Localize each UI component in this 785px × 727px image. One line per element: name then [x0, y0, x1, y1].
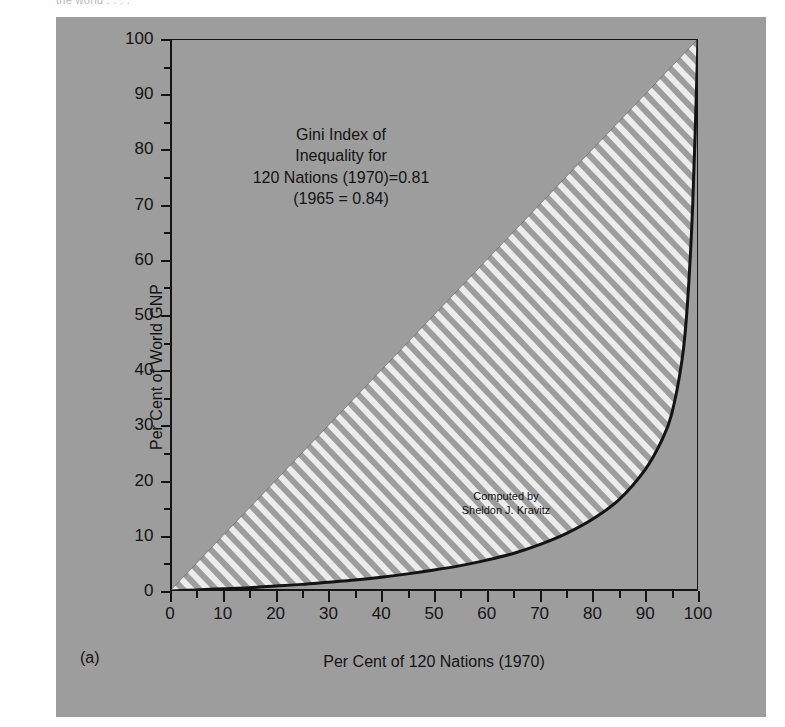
x-axis-tick-label-10: 10 — [213, 604, 232, 624]
x-axis-tick-label-40: 40 — [372, 604, 391, 624]
x-axis-tick-label-70: 70 — [530, 604, 549, 624]
gini-annotation-line-4: (1965 = 0.84) — [216, 188, 466, 209]
cropped-caption-text: the world . . . . — [56, 0, 130, 6]
y-axis-tick-10 — [161, 536, 170, 538]
x-axis-tick-label-80: 80 — [583, 604, 602, 624]
y-axis-tick-label-20: 20 — [135, 471, 160, 491]
x-axis-tick-25 — [302, 591, 304, 598]
y-axis-tick-label-80: 80 — [135, 139, 160, 159]
x-axis-tick-95 — [672, 591, 674, 598]
gini-annotation-line-3: 120 Nations (1970)=0.81 — [216, 167, 466, 188]
y-axis-tick-60 — [161, 260, 170, 262]
x-axis-tick-60 — [487, 591, 489, 602]
lorenz-curve-graphic — [170, 39, 698, 591]
y-axis-tick-65 — [164, 232, 170, 234]
x-axis-tick-65 — [513, 591, 515, 598]
y-axis-tick-90 — [161, 94, 170, 96]
x-axis-tick-90 — [645, 591, 647, 602]
x-axis-tick-85 — [619, 591, 621, 598]
x-axis-tick-10 — [223, 591, 225, 602]
y-axis-tick-45 — [164, 343, 170, 345]
y-axis-tick-label-50: 50 — [135, 305, 160, 325]
y-axis-tick-35 — [164, 398, 170, 400]
x-axis-tick-50 — [434, 591, 436, 602]
y-axis-tick-20 — [161, 481, 170, 483]
x-axis-tick-label-60: 60 — [477, 604, 496, 624]
x-axis-tick-label-0: 0 — [165, 604, 174, 624]
y-axis-tick-label-30: 30 — [135, 415, 160, 435]
y-axis-tick-label-70: 70 — [135, 195, 160, 215]
y-axis-tick-label-10: 10 — [135, 526, 160, 546]
y-axis-tick-100 — [161, 39, 170, 41]
y-axis-tick-0 — [161, 591, 170, 593]
y-axis-tick-95 — [164, 67, 170, 69]
x-axis-tick-55 — [460, 591, 462, 598]
credit-annotation: Computed by Sheldon J. Kravitz — [436, 489, 576, 518]
plot-area: 0102030405060708090100 01020304050607080… — [170, 39, 698, 591]
x-axis-tick-80 — [592, 591, 594, 602]
x-axis-title: Per Cent of 120 Nations (1970) — [170, 653, 698, 671]
y-axis-tick-50 — [161, 315, 170, 317]
y-axis-tick-85 — [164, 122, 170, 124]
gini-annotation-line-1: Gini Index of — [216, 124, 466, 145]
figure-panel: Per Cent of World GNP Per Cent of 120 Na… — [56, 17, 766, 717]
y-axis-tick-70 — [161, 205, 170, 207]
x-axis-tick-100 — [698, 591, 700, 602]
x-axis-tick-label-90: 90 — [636, 604, 655, 624]
gini-annotation-line-2: Inequality for — [216, 145, 466, 166]
y-axis-tick-5 — [164, 563, 170, 565]
y-axis-tick-25 — [164, 453, 170, 455]
x-axis-tick-20 — [276, 591, 278, 602]
y-axis-tick-label-0: 0 — [144, 581, 159, 601]
x-axis-tick-label-100: 100 — [684, 604, 712, 624]
y-axis-tick-label-90: 90 — [135, 84, 160, 104]
y-axis-tick-15 — [164, 508, 170, 510]
x-axis-tick-5 — [196, 591, 198, 598]
x-axis-tick-15 — [249, 591, 251, 598]
credit-line-2: Sheldon J. Kravitz — [436, 503, 576, 517]
x-axis-tick-45 — [408, 591, 410, 598]
x-axis-tick-35 — [355, 591, 357, 598]
x-axis-tick-label-50: 50 — [425, 604, 444, 624]
y-axis-tick-label-100: 100 — [125, 29, 159, 49]
panel-label: (a) — [80, 649, 100, 667]
x-axis-tick-70 — [540, 591, 542, 602]
y-axis-tick-label-60: 60 — [135, 250, 160, 270]
y-axis-tick-80 — [161, 149, 170, 151]
credit-line-1: Computed by — [436, 489, 576, 503]
x-axis-tick-30 — [328, 591, 330, 602]
y-axis-tick-label-40: 40 — [135, 360, 160, 380]
x-axis-tick-0 — [170, 591, 172, 602]
x-axis-tick-label-30: 30 — [319, 604, 338, 624]
x-axis-tick-75 — [566, 591, 568, 598]
y-axis-tick-30 — [161, 425, 170, 427]
gini-index-annotation: Gini Index of Inequality for 120 Nations… — [216, 124, 466, 209]
x-axis-tick-40 — [381, 591, 383, 602]
x-axis-tick-label-20: 20 — [266, 604, 285, 624]
y-axis-tick-55 — [164, 287, 170, 289]
y-axis-tick-75 — [164, 177, 170, 179]
y-axis-tick-40 — [161, 370, 170, 372]
